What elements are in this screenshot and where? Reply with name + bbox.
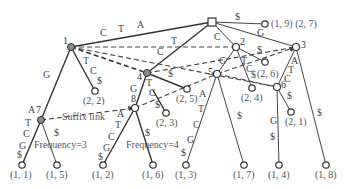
edge-label: C — [157, 46, 164, 57]
edge-label: G — [130, 83, 137, 94]
node-7 — [38, 117, 45, 124]
node-6 — [274, 84, 281, 91]
edge-label: G — [257, 27, 264, 38]
leaf-node — [288, 109, 294, 115]
leaf-label: (2, 2) — [83, 95, 105, 107]
edge-label: $ — [168, 68, 173, 79]
edge-label: G — [270, 115, 277, 126]
edge-label: $ — [145, 127, 150, 138]
edge-label: C — [108, 131, 115, 142]
suffix-tree-diagram: 1 2 3 4 5 6 7 8 C T A C T $ C G G T C $ … — [0, 0, 349, 189]
node-label-5: 5 — [208, 66, 213, 77]
edge-label: C — [23, 128, 30, 139]
leaf-label: (1, 5) — [46, 169, 68, 181]
edge-label: $ — [54, 127, 59, 138]
leaf-label: (2, 6) — [257, 68, 279, 80]
leaf-label: (2, 1) — [285, 116, 307, 128]
edge-label: $ — [181, 147, 186, 158]
edge-label: $ — [237, 110, 242, 121]
edge-label: $ — [155, 99, 160, 110]
edge-label: C — [100, 27, 107, 38]
edge-label: $ — [287, 90, 292, 101]
leaf-label: (1, 6) — [142, 169, 164, 181]
leaf-node — [183, 162, 189, 168]
leaf-node — [92, 88, 98, 94]
edge-label: A — [199, 88, 207, 99]
leaf-label: (1, 2) — [92, 169, 114, 181]
node-4 — [144, 70, 151, 77]
node-label-7: 7 — [36, 104, 41, 115]
leaf-node — [163, 110, 169, 116]
leaf-node — [323, 162, 329, 168]
edge-label: C — [149, 87, 156, 98]
edge-label: T — [198, 103, 204, 114]
frequency-annotation-right: Frequency=4 — [126, 139, 179, 150]
leaf-node — [249, 85, 255, 91]
root-node — [208, 18, 216, 26]
leaf-label: (1, 1) — [10, 169, 32, 181]
edge-label: T — [118, 23, 124, 34]
edge-label: $ — [251, 69, 256, 80]
edge-label: A — [137, 19, 145, 30]
leaf-node — [100, 162, 106, 168]
edge-label: G — [187, 134, 194, 145]
leaf-node — [276, 162, 282, 168]
node-label-3: 3 — [301, 39, 306, 50]
leaf-label: (1, 4) — [268, 169, 290, 181]
leaf-label: (1, 9) (2, 7) — [271, 18, 317, 30]
edge-label: $ — [270, 131, 275, 142]
leaf-label: (1, 7) — [233, 169, 255, 181]
edge-6-leaf14 — [277, 87, 279, 165]
node-label-4: 4 — [137, 71, 142, 82]
leaf-node — [19, 162, 25, 168]
leaf-label: (1, 8) — [315, 169, 337, 181]
leaf-node — [184, 86, 190, 92]
edge-label: T — [171, 35, 177, 46]
node-3 — [293, 44, 300, 51]
node-label-1: 1 — [63, 35, 68, 46]
edge-1-7 — [41, 47, 71, 120]
edge-label: T — [83, 55, 89, 66]
leaf-label: (2, 5) — [176, 93, 198, 105]
edge-label: $ — [257, 44, 262, 55]
edge-label: G — [103, 142, 110, 153]
leaf-node — [241, 162, 247, 168]
edge-label: T — [25, 117, 31, 128]
edge-label: A — [28, 104, 36, 115]
edge-label: $ — [98, 151, 103, 162]
edge-root-leaf19 — [212, 22, 265, 24]
leaf-label: (1, 3) — [175, 169, 197, 181]
edge-label: A — [117, 108, 125, 119]
edge-label: G — [43, 69, 50, 80]
edge-label: C — [284, 73, 291, 84]
node-2 — [233, 44, 240, 51]
edge-3-leaf18 — [296, 47, 326, 165]
edge-label: $ — [17, 149, 22, 160]
edge-label: $ — [97, 75, 102, 86]
edge-label: $ — [235, 11, 240, 22]
node-1 — [68, 44, 75, 51]
leaf-node — [150, 162, 156, 168]
edge-label: C — [214, 31, 221, 42]
tree-svg: 1 2 3 4 5 6 7 8 C T A C T $ C G G T C $ … — [0, 0, 349, 189]
edge-label: C — [193, 119, 200, 130]
edge-label: C — [90, 65, 97, 76]
frequency-annotation-left: Frequency=3 — [34, 139, 87, 150]
leaf-node — [54, 162, 60, 168]
leaf-node — [262, 59, 268, 65]
leaf-label: (2, 3) — [156, 117, 178, 129]
edge-8-leaf16 — [135, 108, 153, 165]
node-label-8: 8 — [131, 93, 136, 104]
leaf-label: (2, 4) — [241, 92, 263, 104]
node-label-2: 2 — [240, 36, 245, 47]
node-8 — [132, 105, 139, 112]
node-5 — [214, 71, 221, 78]
edge-label: $ — [317, 107, 322, 118]
suffix-link-annotation: Suffix link — [62, 111, 105, 122]
edge-label: T — [115, 119, 121, 130]
edge-label: G — [219, 55, 226, 66]
